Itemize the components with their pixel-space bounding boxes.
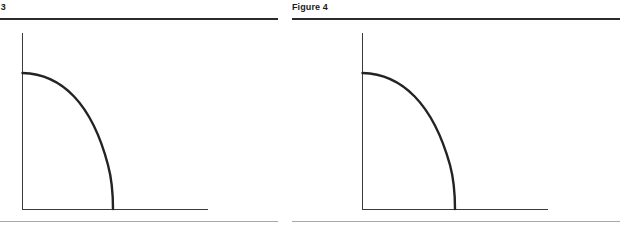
figure-caption-right: Figure 4: [292, 1, 328, 13]
caption-rule-right: [292, 18, 620, 20]
figure-caption-left: Figure 3: [0, 1, 6, 13]
ppf-curve-right: [363, 73, 456, 209]
figure-panel-right: Figure 4: [292, 0, 626, 239]
caption-rule-left: [0, 18, 278, 20]
footer-rule-left: [0, 221, 278, 222]
figure-chart-left: [0, 28, 278, 218]
figure-chart-right: [292, 28, 626, 218]
figure-panel-left: Figure 3: [0, 0, 278, 239]
footer-rule-right: [292, 221, 620, 222]
ppf-curve-left: [23, 73, 114, 209]
